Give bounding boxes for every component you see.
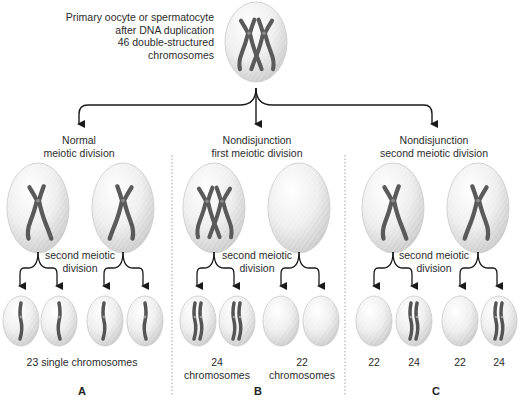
label-line: 46 double-structured (66, 36, 214, 49)
panel-a-cell-2 (92, 163, 154, 253)
panel-b-cell-1 (183, 163, 245, 253)
division-line: second meiotic (222, 249, 292, 262)
gamete-a-3 (87, 296, 123, 346)
panel-b-result-label-24: 24 chromosomes (184, 356, 250, 381)
panel-letter-a: A (78, 385, 86, 397)
panel-b-title: Nondisjunction first meiotic division (211, 134, 302, 159)
title-line: meiotic division (43, 147, 114, 160)
top-branch-arrows (79, 88, 432, 124)
title-line: first meiotic division (211, 147, 302, 160)
panel-c-result-label-3: 22 (454, 356, 466, 369)
division-line: division (399, 262, 469, 275)
panel-c-division-label: second meiotic division (399, 249, 469, 274)
panel-a-division-label: second meiotic division (45, 249, 115, 274)
primary-cell (225, 2, 287, 82)
count: 24 (184, 356, 250, 369)
label-line: Primary oocyte or spermatocyte (66, 11, 214, 24)
count: 22 (269, 356, 335, 369)
division-line: division (222, 262, 292, 275)
gamete-b-1 (180, 296, 216, 346)
panel-b-result-label-22: 22 chromosomes (269, 356, 335, 381)
panel-letter-b: B (254, 385, 262, 397)
gamete-a-2 (41, 296, 77, 346)
panel-c-title: Nondisjunction second meiotic division (380, 134, 488, 159)
panel-letter-c: C (432, 385, 440, 397)
panel-a-result-label: 23 single chromosomes (27, 356, 138, 369)
panel-c-result-label-2: 24 (408, 356, 420, 369)
gamete-b-4-empty (303, 296, 339, 346)
title-line: Nondisjunction (380, 134, 488, 147)
gamete-a-1 (3, 296, 39, 346)
division-line: division (45, 262, 115, 275)
gamete-c-4 (481, 296, 517, 346)
unit: chromosomes (184, 369, 250, 382)
gamete-a-4 (127, 296, 163, 346)
gamete-c-3-empty (442, 296, 478, 346)
gamete-b-2 (219, 296, 255, 346)
label-line: chromosomes (66, 49, 214, 62)
primary-cell-label: Primary oocyte or spermatocyte after DNA… (66, 11, 214, 61)
gamete-b-3-empty (263, 296, 299, 346)
panel-a-cell-1 (7, 163, 69, 253)
label-line: after DNA duplication (66, 24, 214, 37)
title-line: Nondisjunction (211, 134, 302, 147)
panel-c-result-label-4: 24 (493, 356, 505, 369)
panel-b-division-label: second meiotic division (222, 249, 292, 274)
unit: chromosomes (269, 369, 335, 382)
division-line: second meiotic (45, 249, 115, 262)
panel-a-title: Normal meiotic division (43, 134, 114, 159)
title-line: second meiotic division (380, 147, 488, 160)
title-line: Normal (43, 134, 114, 147)
division-line: second meiotic (399, 249, 469, 262)
gamete-c-2 (396, 296, 432, 346)
panel-c-cell-2 (447, 163, 509, 253)
gamete-c-1-empty (356, 296, 392, 346)
panel-b-cell-2-empty (268, 163, 330, 253)
panel-c-cell-1 (362, 163, 424, 253)
panel-c-result-label-1: 22 (368, 356, 380, 369)
